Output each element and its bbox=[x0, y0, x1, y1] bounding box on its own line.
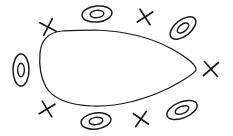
sketch-canvas bbox=[0, 0, 233, 136]
figure-background bbox=[0, 0, 233, 136]
sketch-figure bbox=[0, 0, 233, 136]
